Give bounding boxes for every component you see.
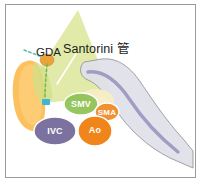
ivc-vessel: [34, 117, 76, 145]
smv-vessel: [64, 93, 98, 115]
anatomy-illustration: [0, 0, 201, 183]
ao-vessel: [78, 116, 112, 146]
figure-root: Santorini 管 GDA SMV SMA IVC Ao: [0, 0, 201, 183]
papilla-marker: [42, 99, 50, 105]
santorini-duct-dotted-upper: [24, 50, 42, 57]
